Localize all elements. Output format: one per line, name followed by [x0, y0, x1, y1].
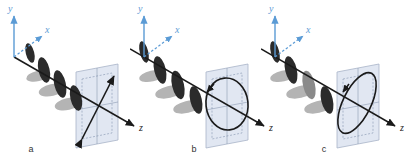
- panel-a-linear-polarization: z y x a: [0, 0, 132, 161]
- panel-c-diagram: z y x: [261, 0, 409, 161]
- z-axis-label-c: z: [399, 122, 404, 133]
- projection-plane-b: [206, 64, 248, 148]
- electromagnetic-wave-b: [137, 40, 205, 116]
- x-axis-label-c: x: [305, 24, 311, 35]
- panel-b-circular-polarization: z y x b: [130, 0, 262, 161]
- panel-caption-b: b: [128, 144, 260, 155]
- y-axis-label-b: y: [137, 3, 143, 14]
- electromagnetic-wave-c: [268, 40, 336, 116]
- x-axis-label-a: x: [44, 24, 50, 35]
- y-axis-label-a: y: [7, 3, 13, 14]
- y-axis-label-c: y: [268, 3, 274, 14]
- electromagnetic-wave-a: [24, 42, 85, 113]
- panel-c-elliptical-polarization: z y x c: [261, 0, 393, 161]
- x-axis-c: [275, 36, 303, 57]
- x-axis-label-b: x: [174, 24, 180, 35]
- projection-plane-c: [337, 64, 379, 148]
- x-axis-b: [144, 36, 172, 57]
- panel-caption-a: a: [0, 144, 97, 155]
- projection-plane-a: [76, 64, 118, 148]
- panel-caption-c: c: [258, 144, 390, 155]
